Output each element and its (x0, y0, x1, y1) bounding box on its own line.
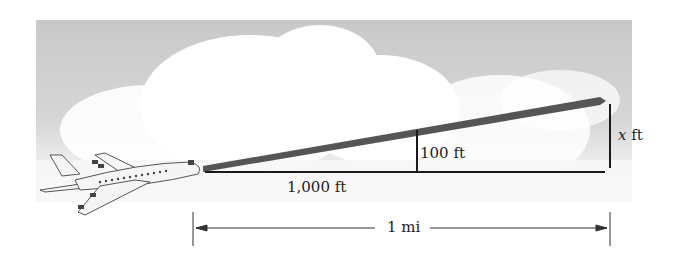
unknown-unit: ft (626, 126, 642, 144)
total-distance-label: 1 mi (387, 218, 420, 236)
base-distance-label: 1,000 ft (287, 178, 346, 196)
diagram-canvas (0, 0, 680, 257)
unknown-height-label: x ft (618, 126, 643, 144)
small-height-label: 100 ft (420, 144, 465, 162)
